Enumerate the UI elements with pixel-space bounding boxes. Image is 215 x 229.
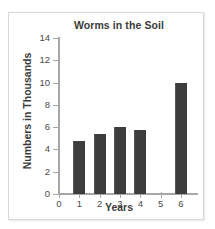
y-tick-mark <box>53 127 60 128</box>
y-tick-label: 4 <box>27 144 50 154</box>
y-tick-label: 8 <box>27 100 50 110</box>
bar-year-2 <box>94 134 106 194</box>
y-tick-label: 14 <box>27 33 50 43</box>
y-tick-mark <box>53 83 60 84</box>
bar-year-1 <box>73 141 85 194</box>
y-tick-label: 0 <box>27 189 50 199</box>
y-tick-label: 12 <box>27 55 50 65</box>
x-tick-label: 3 <box>113 199 127 209</box>
y-tick-mark <box>53 172 60 173</box>
bar-year-6 <box>175 83 187 194</box>
x-tick-label: 0 <box>52 199 66 209</box>
y-tick-label: 6 <box>27 122 50 132</box>
bar-year-3 <box>114 127 126 194</box>
plot-area: Worms in the Soil Numbers in Thousands Y… <box>9 13 203 219</box>
y-tick-mark <box>53 38 60 39</box>
x-tick-label: 1 <box>72 199 86 209</box>
bar-year-4 <box>134 130 146 194</box>
x-tick-label: 4 <box>133 199 147 209</box>
x-tick-label: 6 <box>174 199 188 209</box>
y-tick-mark <box>53 60 60 61</box>
chart-title: Worms in the Soil <box>39 19 199 31</box>
y-tick-mark <box>53 105 60 106</box>
y-tick-label: 2 <box>27 167 50 177</box>
x-tick-label: 5 <box>154 199 168 209</box>
chart-card: Worms in the Soil Numbers in Thousands Y… <box>8 12 204 220</box>
y-tick-mark <box>53 149 60 150</box>
y-tick-label: 10 <box>27 78 50 88</box>
x-tick-label: 2 <box>93 199 107 209</box>
